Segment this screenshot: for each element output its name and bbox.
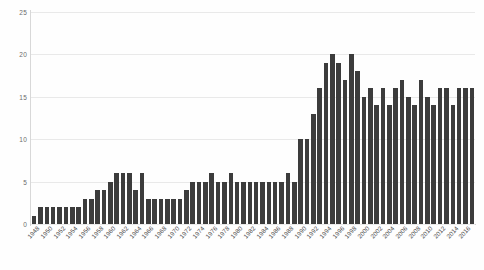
bar — [197, 182, 202, 224]
bar — [83, 199, 88, 224]
bar — [165, 199, 170, 224]
bar — [406, 97, 411, 224]
bar — [470, 88, 475, 224]
bar — [336, 63, 341, 224]
bar — [95, 190, 100, 224]
plot-area: 0510152025 — [31, 12, 475, 224]
bar — [38, 207, 43, 224]
bar — [292, 182, 297, 224]
bar — [463, 88, 468, 224]
y-axis-tick-label: 15 — [19, 93, 27, 100]
bar — [133, 190, 138, 224]
bar — [248, 182, 253, 224]
bar — [203, 182, 208, 224]
bar — [114, 173, 119, 224]
bar — [400, 80, 405, 224]
bar — [279, 182, 284, 224]
bar — [146, 199, 151, 224]
bar — [438, 88, 443, 224]
bar — [45, 207, 50, 224]
bar — [419, 80, 424, 224]
bar — [209, 173, 214, 224]
bar — [89, 199, 94, 224]
bar — [412, 105, 417, 224]
bar — [451, 105, 456, 224]
x-axis-tick-labels: 1948195019521954195619581960196219641966… — [31, 226, 475, 270]
bar — [171, 199, 176, 224]
bar — [267, 182, 272, 224]
bar — [64, 207, 69, 224]
bar — [387, 105, 392, 224]
bar — [362, 97, 367, 224]
bar — [229, 173, 234, 224]
bar — [241, 182, 246, 224]
bar — [127, 173, 132, 224]
bar — [305, 139, 310, 224]
bar — [260, 182, 265, 224]
bar — [121, 173, 126, 224]
x-axis-tick-label: 1948 — [25, 226, 40, 241]
bar — [184, 190, 189, 224]
bar — [425, 97, 430, 224]
y-axis-tick-label: 10 — [19, 136, 27, 143]
bar — [317, 88, 322, 224]
bar — [76, 207, 81, 224]
bar — [32, 216, 37, 224]
bar — [178, 199, 183, 224]
y-axis-tick-label: 0 — [23, 221, 27, 228]
bar — [431, 105, 436, 224]
bar — [273, 182, 278, 224]
bar — [235, 182, 240, 224]
bar — [374, 105, 379, 224]
bar — [324, 63, 329, 224]
bar — [51, 207, 56, 224]
bar — [254, 182, 259, 224]
bar — [222, 182, 227, 224]
bar — [108, 182, 113, 224]
bar — [311, 114, 316, 224]
bar — [330, 54, 335, 224]
bar-series — [31, 12, 475, 224]
bar — [343, 80, 348, 224]
bar — [368, 88, 373, 224]
bar-chart: 0510152025 19481950195219541956195819601… — [0, 0, 484, 270]
bar — [159, 199, 164, 224]
bar — [457, 88, 462, 224]
bar — [216, 182, 221, 224]
bar — [444, 88, 449, 224]
bar — [70, 207, 75, 224]
y-axis-tick-label: 25 — [19, 9, 27, 16]
bar — [190, 182, 195, 224]
bar — [57, 207, 62, 224]
bar — [393, 88, 398, 224]
bar — [349, 54, 354, 224]
bar — [298, 139, 303, 224]
bar — [355, 71, 360, 224]
y-axis-tick-label: 5 — [23, 178, 27, 185]
bar — [140, 173, 145, 224]
bar — [286, 173, 291, 224]
bar — [152, 199, 157, 224]
bar — [102, 190, 107, 224]
bar — [381, 88, 386, 224]
y-axis-tick-label: 20 — [19, 51, 27, 58]
